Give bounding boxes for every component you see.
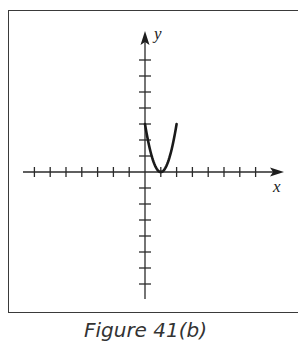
y-axis-label: y [154,24,162,44]
parabola-curve [145,124,177,172]
figure-caption: Figure 41(b) [0,318,291,342]
x-axis-label: x [273,177,281,197]
